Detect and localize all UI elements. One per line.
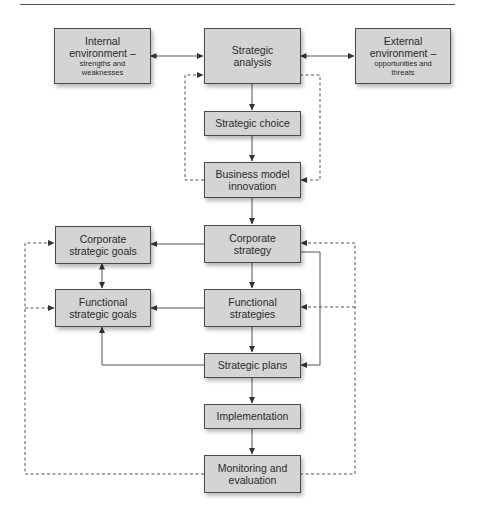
func-strategies-line1: Functional	[228, 296, 276, 308]
choice-line1: Strategic choice	[215, 117, 290, 129]
functional-strategies-box: Functional strategies	[204, 289, 301, 327]
strategic-analysis-box: Strategic analysis	[204, 28, 301, 84]
bmi-line2: innovation	[229, 180, 277, 192]
internal-sub-line1: strengths and	[80, 59, 125, 68]
corp-goals-line1: Corporate	[80, 233, 127, 245]
internal-environment-box: Internal environment – strengths and wea…	[54, 28, 151, 84]
external-sub-line1: opportunities and	[374, 59, 432, 68]
internal-title-line2: environment –	[69, 47, 136, 59]
analysis-line2: analysis	[234, 56, 272, 68]
monitoring-line1: Monitoring and	[218, 462, 287, 474]
monitoring-evaluation-box: Monitoring and evaluation	[204, 455, 301, 493]
corporate-strategy-box: Corporate strategy	[204, 225, 301, 263]
business-model-innovation-box: Business model innovation	[204, 162, 301, 198]
strategic-choice-box: Strategic choice	[204, 111, 301, 136]
corp-strategy-line1: Corporate	[229, 232, 276, 244]
plans-line1: Strategic plans	[218, 359, 287, 371]
internal-sub-line2: weaknesses	[82, 68, 123, 77]
func-goals-line1: Functional	[79, 296, 127, 308]
functional-strategic-goals-box: Functional strategic goals	[55, 289, 151, 327]
external-environment-box: External environment – opportunities and…	[355, 28, 451, 84]
corporate-strategic-goals-box: Corporate strategic goals	[55, 226, 151, 264]
func-goals-line2: strategic goals	[69, 308, 137, 320]
internal-title-line1: Internal	[85, 35, 120, 47]
strategic-plans-box: Strategic plans	[204, 353, 301, 378]
external-title-line2: environment –	[370, 47, 437, 59]
func-strategies-line2: strategies	[230, 308, 276, 320]
implementation-line1: Implementation	[217, 410, 289, 422]
corp-goals-line2: strategic goals	[69, 245, 137, 257]
bmi-line1: Business model	[215, 168, 289, 180]
corp-strategy-line2: strategy	[234, 244, 271, 256]
analysis-line1: Strategic	[232, 44, 273, 56]
external-sub-line2: threats	[392, 68, 415, 77]
implementation-box: Implementation	[204, 404, 301, 429]
monitoring-line2: evaluation	[229, 474, 277, 486]
external-title-line1: External	[384, 35, 423, 47]
